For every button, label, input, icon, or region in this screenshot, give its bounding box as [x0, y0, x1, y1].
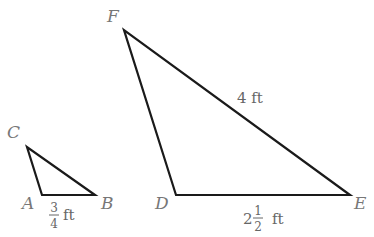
measurement-de: 2 1 2 ft — [243, 204, 284, 234]
vertex-label-d: D — [154, 193, 169, 213]
similar-triangles-diagram: C A B 3 4 ft F D E 4 ft 2 1 2 ft — [0, 0, 374, 237]
fraction-denominator: 2 — [254, 220, 262, 234]
unit-label: ft — [63, 206, 75, 224]
vertex-label-e: E — [353, 193, 367, 213]
vertex-label-b: B — [100, 193, 114, 213]
vertex-label-f: F — [106, 6, 120, 26]
vertex-label-a: A — [20, 193, 34, 213]
triangle-abc — [27, 147, 95, 195]
fraction-numerator: 3 — [50, 201, 58, 215]
triangle-def — [124, 30, 350, 195]
fraction-denominator: 4 — [50, 217, 58, 231]
mixed-number-whole: 2 — [243, 210, 253, 228]
fraction-numerator: 1 — [254, 204, 262, 218]
measurement-ab: 3 4 ft — [49, 201, 75, 231]
vertex-label-c: C — [7, 122, 20, 142]
unit-label: ft — [272, 210, 284, 228]
measurement-fe: 4 ft — [237, 89, 263, 107]
